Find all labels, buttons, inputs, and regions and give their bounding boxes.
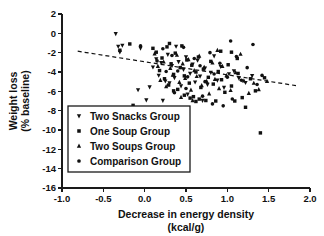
data-point [181,68,185,72]
data-point [160,56,163,59]
data-point [174,45,178,49]
x-axis-tick-label: -1.0 [54,193,70,204]
legend-label: One Soup Group [90,126,170,137]
data-point [204,99,207,102]
data-point [226,63,229,66]
data-point [188,96,191,99]
data-point [157,74,161,78]
y-axis-tick-label: -16 [42,182,56,193]
data-point [189,87,193,91]
x-axis-tick-label: 2.0 [303,193,316,204]
scatter-plot-figure: 20-2-4-6-8-10-12-14-16-1.0-0.50.00.51.01… [0,0,324,236]
x-axis-tick-label: 1.0 [221,193,234,204]
data-point [230,84,233,87]
x-axis-tick-label: 0.5 [179,193,193,204]
data-point [259,131,262,134]
data-point [212,72,216,76]
y-axis-tick-label: -12 [42,144,56,155]
data-point [240,78,244,82]
data-point [168,42,171,45]
data-point [186,75,190,79]
data-point [179,95,183,99]
y-axis-tick-label: -2 [48,47,56,58]
data-point [240,96,243,99]
data-point [222,86,226,90]
data-point [151,65,155,69]
data-point [148,85,152,89]
x-axis-tick-label: 1.5 [262,193,276,204]
chart-legend: Two Snacks GroupOne Soup GroupTwo Soups … [68,106,190,172]
data-point [167,83,170,86]
data-point [249,77,252,80]
data-point [230,97,234,101]
data-point [194,100,197,103]
data-point [181,61,185,65]
data-point [144,98,148,102]
data-point [176,60,180,64]
y-axis-tick-label: -4 [48,66,57,77]
data-point [211,102,215,106]
data-point [120,44,124,48]
data-point [212,54,216,58]
x-axis-title-units: (kcal/g) [168,221,205,233]
data-point [252,81,256,85]
data-point [220,78,223,81]
x-axis-title: Decrease in energy density [118,208,254,220]
data-point [201,94,205,98]
data-point [183,93,186,96]
data-point [207,76,210,79]
legend-marker-circle-icon [77,159,81,163]
y-axis-tick-label: 0 [51,28,56,39]
data-point [251,43,255,47]
data-point [156,64,160,68]
data-point [192,95,195,98]
y-axis-tick-label: -6 [48,86,56,97]
data-point [190,64,193,67]
data-point [179,84,183,88]
trendline-group [78,51,299,86]
data-point [198,64,202,68]
data-point [136,88,140,92]
data-point [207,91,211,95]
data-point [198,97,201,100]
data-point [170,54,174,58]
data-point [217,86,221,90]
data-point [212,82,215,85]
data-point [128,42,131,45]
data-point [166,53,170,57]
series-comparison-group [139,39,264,107]
y-axis-title: Weight loss [7,71,19,130]
data-point [188,81,191,84]
data-point [161,99,165,103]
x-axis-tick-label: 0.0 [138,193,151,204]
data-point [257,87,261,91]
data-point [158,69,161,72]
data-point [155,59,159,63]
data-point [255,83,259,87]
data-point [195,74,199,78]
data-point [238,52,242,56]
data-point [118,49,121,52]
data-point [182,46,186,50]
data-point [192,57,196,61]
regression-trendline [78,51,299,86]
data-point [218,62,222,66]
data-point [176,69,180,73]
legend-label: Comparison Group [90,156,181,167]
data-point [260,74,264,78]
data-point [151,47,154,50]
data-point [169,62,172,65]
data-point [244,106,247,109]
data-point [198,75,202,79]
data-point [221,104,225,108]
data-point [186,92,190,96]
data-point [219,50,222,53]
data-point [116,45,120,49]
data-point [235,55,239,59]
data-point [215,48,219,52]
legend-marker-square-icon [77,129,81,133]
data-point [164,70,168,74]
data-point [229,88,233,92]
data-point [217,70,220,73]
legend-item: Two Soups Group [77,141,176,152]
